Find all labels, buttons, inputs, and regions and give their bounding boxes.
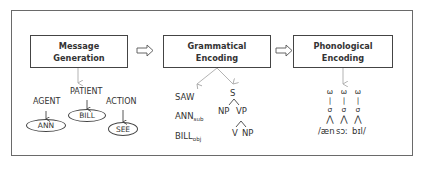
grammatical-encoding-box: Grammatical Encoding xyxy=(163,35,271,68)
segment-aen: /æn xyxy=(318,126,335,136)
tier-bar-1: | xyxy=(323,96,337,105)
phonological-word-omega-3: ω xyxy=(351,87,365,96)
tier-bar-3: | xyxy=(351,96,365,105)
stage-label-line1: Message xyxy=(59,40,99,52)
segment-sor: sɔː xyxy=(336,126,348,136)
segment-branch-3: ⋀ xyxy=(351,115,365,124)
stage-label-line2: Encoding xyxy=(196,52,238,64)
concept-label: BILL xyxy=(79,111,95,120)
role-label-patient: PATIENT xyxy=(70,87,102,97)
lemma-ann-subject: ANNsub xyxy=(175,111,203,124)
tree-node-np-object: NP xyxy=(242,128,253,138)
segment-branch-2: ⋀ xyxy=(337,115,351,124)
tree-node-vp: VP xyxy=(236,106,247,116)
role-label-action: ACTION xyxy=(106,97,136,107)
stage-label-line1: Phonological xyxy=(313,40,372,52)
stage-label-line2: Encoding xyxy=(322,52,364,64)
concept-ellipse-bill: BILL xyxy=(68,109,106,122)
tree-node-s: S xyxy=(230,88,235,98)
concept-ellipse-ann: ANN xyxy=(26,119,66,132)
concept-label: SEE xyxy=(116,125,130,134)
phonological-encoding-box: Phonological Encoding xyxy=(293,35,393,68)
concept-label: ANN xyxy=(38,121,54,130)
syllable-sigma-2: σ xyxy=(337,105,351,114)
concept-ellipse-see: SEE xyxy=(108,122,138,136)
stage-label-line2: Generation xyxy=(53,52,104,64)
lemma-saw: SAW xyxy=(175,92,194,102)
role-label-agent: AGENT xyxy=(33,97,60,107)
lemma-bill-object: BILLobj xyxy=(175,131,201,144)
syllable-sigma-1: σ xyxy=(323,105,337,114)
message-generation-box: Message Generation xyxy=(30,35,128,68)
syllable-sigma-3: σ xyxy=(351,105,365,114)
segment-branch-1: ⋀ xyxy=(323,115,337,124)
phonological-word-omega-1: ω xyxy=(323,87,337,96)
phonological-word-omega-2: ω xyxy=(337,87,351,96)
segment-bil: bɪl/ xyxy=(352,126,366,136)
tree-node-np: NP xyxy=(218,106,229,116)
tree-node-v: V xyxy=(232,128,238,138)
tier-bar-2: | xyxy=(337,96,351,105)
stage-label-line1: Grammatical xyxy=(188,40,247,52)
